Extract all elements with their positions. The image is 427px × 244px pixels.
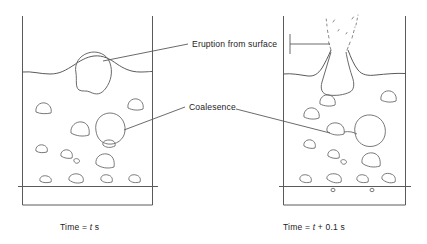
annotation-label-eruption: Eruption from surface [192,39,277,49]
left-panel [18,16,158,205]
bubble [96,154,114,168]
bubble [328,150,340,159]
bubble [128,99,143,110]
bubble [362,153,380,167]
bubble [71,122,89,136]
jet-streak [326,17,327,26]
eruption-jet-spray [326,15,358,50]
bubble [304,108,319,119]
left-bubble-field [36,99,143,183]
caption-left-suffix: s [92,222,99,232]
jet-particle [346,33,347,35]
bubble-base [69,174,83,183]
bubble [61,150,73,159]
caption-right-suffix: + 0.1 s [315,222,345,232]
bubble [36,103,51,114]
right-bubble-field [300,91,396,192]
bubble-merged-large [355,115,386,147]
bubble-base [129,175,141,183]
bubble-base [40,176,52,183]
jet-streak [327,28,329,38]
caption-left-panel: Time = t s [60,222,99,232]
leader-line-left [103,44,188,61]
jet-particle [352,17,354,19]
bubble-nucleating [370,188,374,191]
bubble [36,145,48,153]
right-panel [279,15,411,205]
bubble [304,140,316,149]
jet-streak [347,40,351,50]
caption-right-prefix: Time = [283,222,313,232]
bubble-tiny [74,159,80,164]
annotation-coalescence: Coalesence [124,102,330,133]
jet-streak [352,27,355,38]
bubble-base [300,175,312,183]
jet-particle [338,30,339,32]
jet-streak [328,40,331,50]
bubble-tiny [341,160,347,165]
bubble [320,95,335,106]
bubble-base [382,173,395,182]
caption-left-prefix: Time = [60,222,90,232]
annotation-eruption-from-surface: Eruption from surface [103,34,330,61]
bubble-nucleating [331,188,335,191]
bubble-base [327,174,341,183]
bed-surface-line-right [348,50,405,75]
bubble-base [101,175,113,183]
leader-line-left [124,107,185,130]
caption-right-panel: Time = t + 0.1 s [283,222,345,232]
jet-particle [333,20,335,22]
bed-surface-line [22,56,152,74]
annotation-label-coalescence: Coalesence [189,102,236,112]
bubble-base [357,175,369,183]
bubble-coalescing-large [96,113,125,144]
eruption-crater [321,52,353,95]
jet-streak [356,15,358,25]
bubble [381,91,396,102]
fluidised-bed-diagram: Eruption from surface Coalesence [0,0,427,244]
figure-root: Eruption from surface Coalesence Time = … [0,0,427,244]
